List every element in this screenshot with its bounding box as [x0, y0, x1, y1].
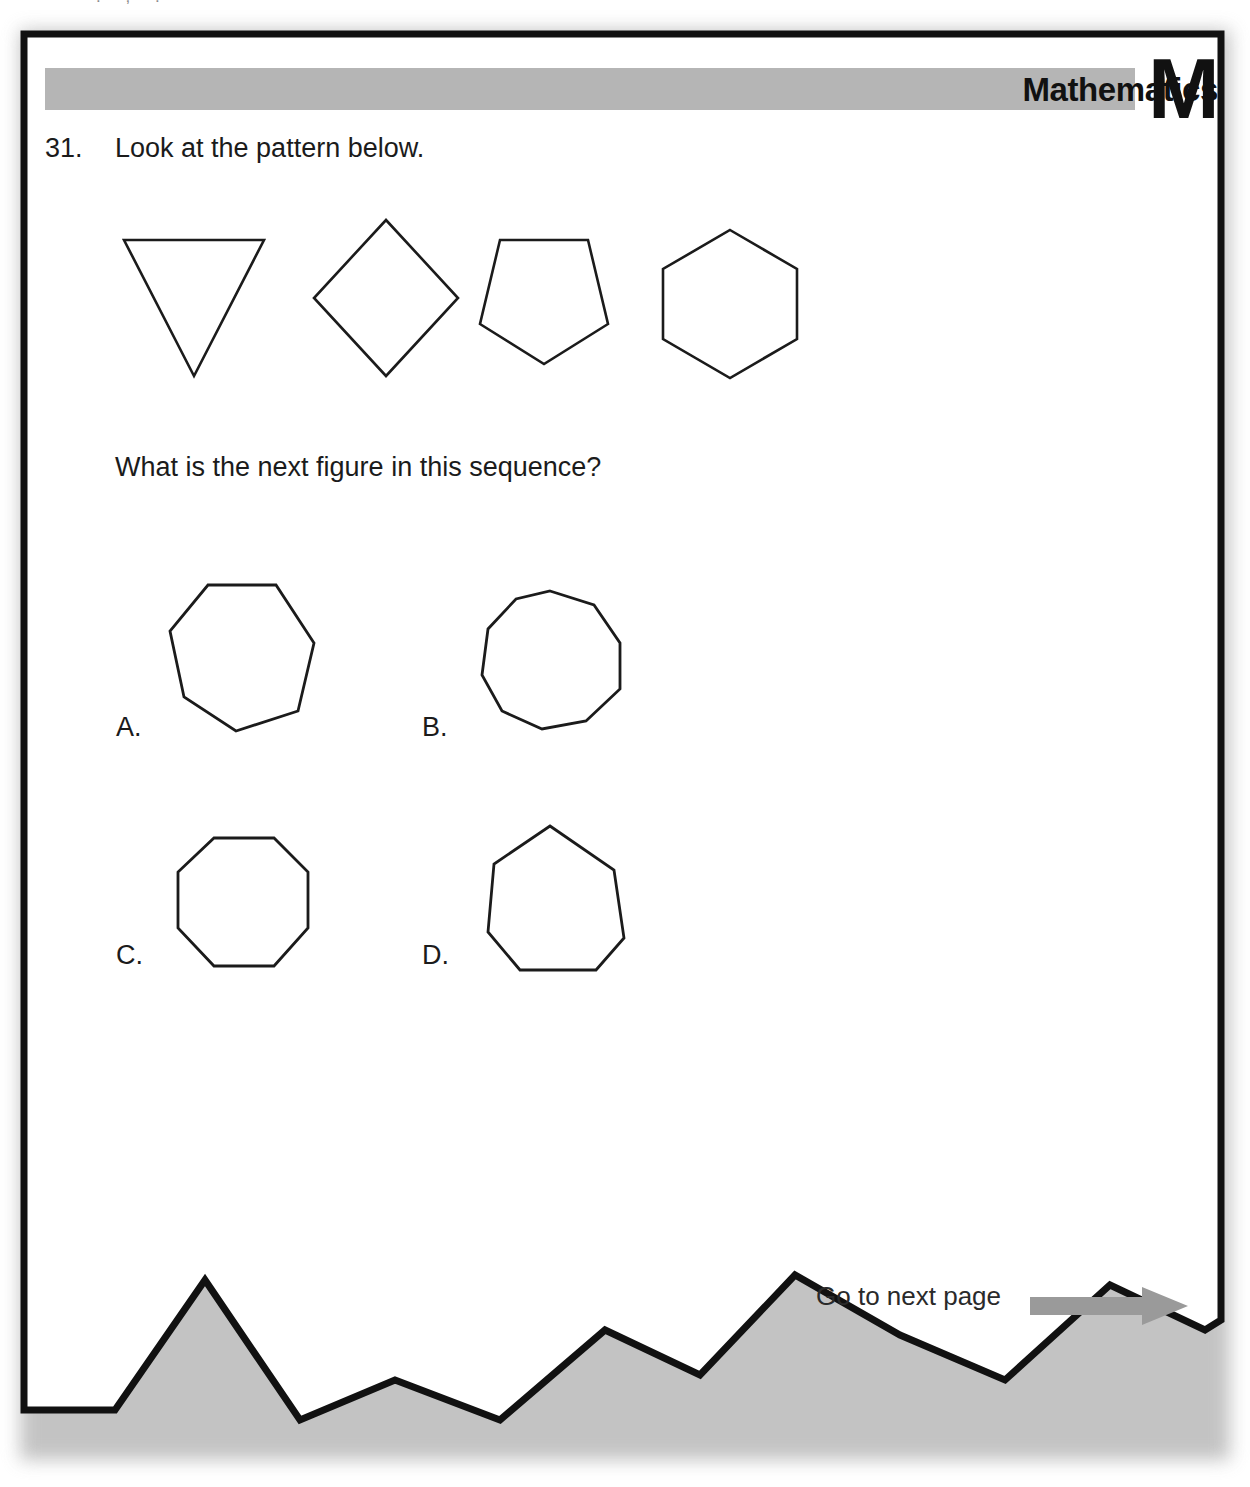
question-number: 31. — [45, 133, 83, 164]
option-label-b[interactable]: B. — [422, 712, 448, 743]
exam-page-screenshot: . , . Mathematics M 31. Look at the patt… — [0, 0, 1250, 1487]
option-label-c[interactable]: C. — [116, 940, 143, 971]
subject-header-band — [45, 68, 1135, 110]
question-prompt: What is the next figure in this sequence… — [115, 452, 601, 483]
scan-top-crumb: . , . — [96, 0, 170, 7]
sequence-shape-pentagon — [474, 232, 614, 370]
option-label-a[interactable]: A. — [116, 712, 142, 743]
next-page-label: Go to next page — [816, 1281, 1001, 1312]
sequence-shape-triangle — [118, 228, 270, 383]
next-page-arrow-icon[interactable] — [1030, 1287, 1190, 1327]
option-shape-c-octagon[interactable] — [168, 830, 316, 976]
sequence-shape-hexagon — [655, 224, 805, 384]
option-shape-a-heptagon[interactable] — [162, 575, 322, 735]
option-shape-d-heptagon[interactable] — [480, 818, 636, 976]
option-label-d[interactable]: D. — [422, 940, 449, 971]
option-shape-b-nonagon[interactable] — [474, 585, 626, 735]
sequence-shape-square — [306, 212, 466, 384]
question-stem: Look at the pattern below. — [115, 133, 424, 164]
subject-letter-badge: M — [1148, 45, 1220, 131]
